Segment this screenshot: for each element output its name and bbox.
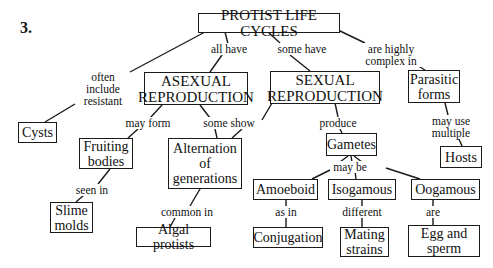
node-label: Gametes [327,137,376,152]
node-label: generations [173,171,238,186]
link-label-some-show: some show [202,117,256,129]
link-label-complex-in: are highly complex in [360,43,422,67]
node-mating-strains: Mating strains [340,227,389,257]
link-label-may-use-multiple: may use multiple [428,115,474,139]
node-label: REPRODUCTION [267,88,383,104]
node-label: forms [418,87,451,102]
node-fruiting-bodies: Fruiting bodies [79,138,133,169]
node-label: Isogamous [332,182,393,197]
link-label-all-have: all have [206,43,252,55]
link-label-may-be: may be [330,161,370,173]
link-label-line: include [80,83,126,95]
node-label: Cysts [22,125,53,140]
figure-number: 3. [20,19,32,37]
link-label-some-have: some have [274,43,330,55]
node-cysts: Cysts [18,122,57,143]
node-label: SEXUAL [295,72,354,88]
node-label: Fruiting [83,139,128,154]
node-label: bodies [88,154,125,169]
node-label: Amoeboid [256,182,315,197]
node-label: Conjugation [253,230,322,245]
link-label-common-in: common in [160,206,214,218]
link-label-line: often [80,71,126,83]
node-label: Oogamous [415,182,476,197]
link-label-are: are [421,206,445,218]
node-sexual-reproduction: SEXUAL REPRODUCTION [270,71,380,104]
node-label: REPRODUCTION [138,89,254,105]
node-label: strains [346,242,383,257]
link-label-seen-in: seen in [72,184,112,196]
link-label-produce: produce [316,117,360,129]
concept-map: 3. PROTIST LIFE CYCLES all have some hav… [0,0,493,268]
node-amoeboid: Amoeboid [253,179,318,200]
node-asexual-reproduction: ASEXUAL REPRODUCTION [144,72,248,105]
link-label-may-form: may form [124,117,172,129]
node-protist-life-cycles: PROTIST LIFE CYCLES [198,13,340,33]
node-hosts: Hosts [440,146,482,168]
node-label: Slime [55,203,88,218]
link-label-line: complex in [360,55,422,67]
node-label: Alternation [173,141,237,156]
link-label-line: multiple [428,127,474,139]
node-label: Mating [344,227,384,242]
node-isogamous: Isogamous [328,179,396,200]
node-label: PROTIST LIFE CYCLES [199,7,339,39]
link-label-often-include-resistant: often include resistant [80,71,126,107]
node-label: of [199,156,211,171]
node-gametes: Gametes [326,133,377,156]
node-slime-molds: Slime molds [50,202,93,233]
node-label: molds [54,218,88,233]
link-label-as-in: as in [270,206,302,218]
node-label: Algal protists [137,222,210,252]
node-label: sperm [427,241,461,256]
node-label: Parasitic [410,72,458,87]
node-alternation-of-generations: Alternation of generations [168,138,242,189]
node-oogamous: Oogamous [411,179,480,200]
link-label-line: resistant [80,95,126,107]
node-egg-and-sperm: Egg and sperm [408,225,480,257]
node-algal-protists: Algal protists [136,227,211,247]
node-conjugation: Conjugation [253,227,323,248]
link-label-different: different [338,206,386,218]
link-label-line: may use [428,115,474,127]
node-label: ASEXUAL [161,73,231,89]
link-label-line: are highly [360,43,422,55]
node-label: Egg and [421,226,467,241]
node-parasitic-forms: Parasitic forms [408,70,460,103]
node-label: Hosts [445,150,477,165]
